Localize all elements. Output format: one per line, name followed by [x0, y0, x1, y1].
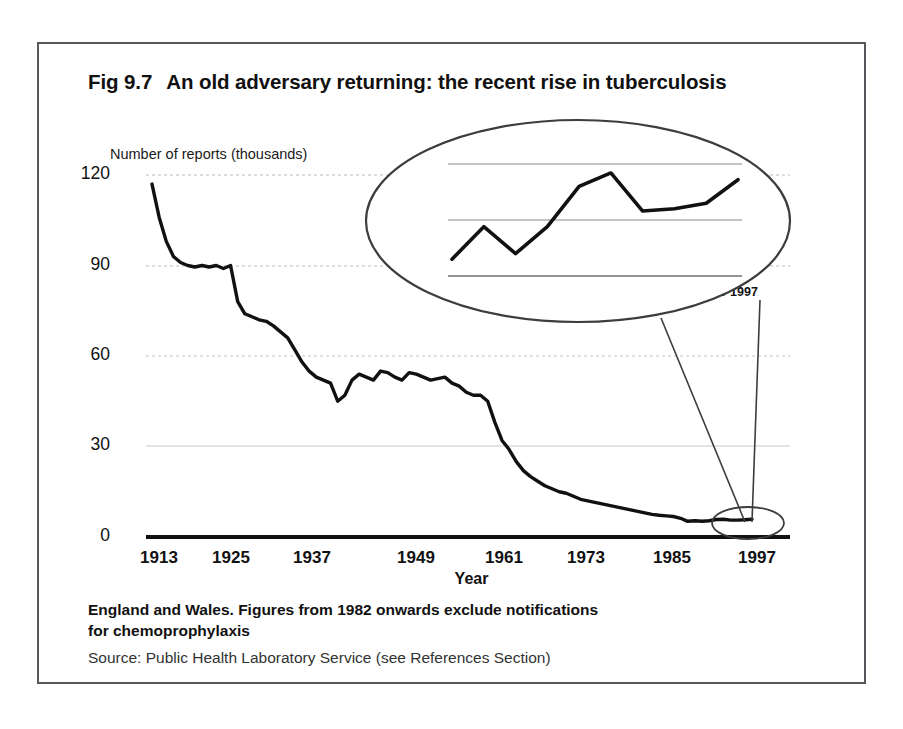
figure-note-line2: for chemoprophylaxis [88, 622, 250, 639]
callout-connector [661, 300, 760, 522]
highlight-ellipse [712, 507, 784, 539]
figure-container: Fig 9.7An old adversary returning: the r… [0, 0, 903, 729]
callout-ellipse [366, 120, 790, 322]
figure-note-line1: England and Wales. Figures from 1982 onw… [88, 601, 598, 618]
figure-note: England and Wales. Figures from 1982 onw… [88, 600, 728, 642]
figure-source: Source: Public Health Laboratory Service… [88, 648, 551, 669]
